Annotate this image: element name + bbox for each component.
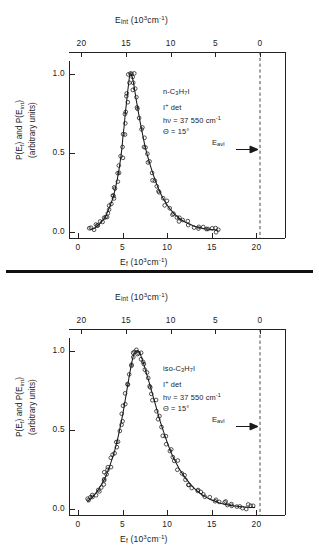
n-propyl-iodide-panel: Eint (103cm-1)Ef (103cm-1)P(Ef) and P(Ei… [0, 0, 319, 272]
annotation-photon-energy: hν = 37 550 cm-1 [163, 113, 221, 126]
plot-data-layer [0, 277, 319, 549]
data-point [208, 495, 212, 499]
annotation-detection: I+ det [163, 377, 221, 390]
data-point [171, 213, 175, 217]
data-point [132, 72, 136, 76]
data-point [224, 500, 228, 504]
e-avl-arrow [236, 146, 258, 153]
data-point [214, 230, 218, 234]
data-point [165, 199, 169, 203]
panel-annotation: n-C3H7II+ dethν = 37 550 cm-1Θ = 15° [163, 86, 221, 137]
annotation-molecule: n-C3H7I [163, 86, 221, 100]
data-point [151, 179, 155, 183]
annotation-photon-energy: hν = 37 550 cm-1 [163, 390, 221, 403]
e-avl-label: Eavl [212, 138, 225, 147]
data-point [244, 507, 248, 511]
annotation-angle: Θ = 15° [163, 403, 221, 414]
e-avl-arrow [236, 423, 258, 430]
annotation-detection: I+ det [163, 100, 221, 113]
data-point [176, 459, 180, 463]
panel-annotation: iso-C3H7II+ dethν = 37 550 cm-1Θ = 15° [163, 363, 221, 414]
iso-propyl-iodide-panel: Eint (103cm-1)Ef (103cm-1)P(Ef) and P(Ei… [0, 277, 319, 549]
data-point [154, 398, 158, 402]
data-point [175, 468, 179, 472]
plot-data-layer [0, 0, 319, 272]
annotation-molecule: iso-C3H7I [163, 363, 221, 377]
data-point [163, 204, 167, 208]
data-point [190, 486, 194, 490]
data-point [186, 219, 190, 223]
data-point [94, 493, 98, 497]
data-point [102, 470, 106, 474]
data-point [102, 483, 106, 487]
e-avl-label: Eavl [212, 415, 225, 424]
data-point [177, 220, 181, 224]
annotation-angle: Θ = 15° [163, 126, 221, 137]
